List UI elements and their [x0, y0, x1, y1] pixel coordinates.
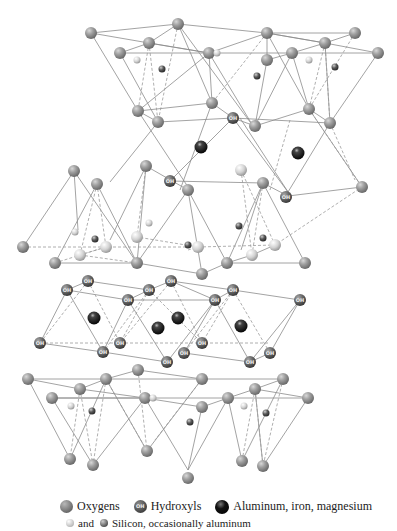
svg-text:OH: OH [229, 287, 237, 293]
svg-text:OH: OH [63, 287, 71, 293]
clay-mineral-structure-diagram: OH OH OH OH OH OH OH OH OH OH OH OH OH O… [0, 0, 397, 490]
legend-item-hydroxyls: OH Hydroxyls [134, 499, 202, 514]
svg-text:OH: OH [163, 359, 171, 365]
tetrahedral-sheet-bottom-dashed [70, 370, 283, 466]
svg-text:OH: OH [229, 115, 237, 121]
svg-text:OH: OH [211, 297, 219, 303]
svg-text:OH: OH [124, 297, 132, 303]
tetrahedral-sheet-middle [23, 166, 362, 274]
svg-text:OH: OH [180, 350, 188, 356]
legend-label-hydroxyls: Hydroxyls [151, 499, 202, 514]
svg-text:OH: OH [167, 278, 175, 284]
svg-text:OH: OH [36, 340, 44, 346]
svg-text:OH: OH [282, 194, 290, 200]
hydroxyl-atom-icon: OH [134, 500, 147, 513]
oxygen-atom-icon [60, 500, 73, 513]
svg-text:OH: OH [116, 340, 124, 346]
svg-text:OH: OH [99, 349, 107, 355]
svg-text:OH: OH [296, 297, 304, 303]
svg-text:OH: OH [166, 178, 174, 184]
svg-text:OH: OH [84, 278, 92, 284]
svg-text:OH: OH [246, 359, 254, 365]
svg-text:OH: OH [145, 287, 153, 293]
svg-text:OH: OH [198, 340, 206, 346]
legend-row-2: and Silicon, occasionally aluminum [66, 517, 251, 529]
legend-item-oxygens: Oxygens [60, 499, 120, 514]
silicon-dark-atom-icon [100, 519, 108, 527]
legend-item-aluminum: Aluminum, iron, magnesium [215, 499, 372, 514]
legend-label-silicon: Silicon, occasionally aluminum [112, 517, 251, 529]
silicon-atoms-dark [89, 64, 339, 426]
legend-label-oxygens: Oxygens [77, 499, 120, 514]
svg-text:OH: OH [266, 350, 274, 356]
legend-label-aluminum: Aluminum, iron, magnesium [233, 499, 372, 514]
aluminum-atom-icon [215, 500, 229, 514]
silicon-light-atom-icon [66, 519, 74, 527]
legend-row-1: Oxygens OH Hydroxyls Aluminum, iron, mag… [60, 499, 386, 514]
legend-label-and: and [78, 517, 94, 529]
